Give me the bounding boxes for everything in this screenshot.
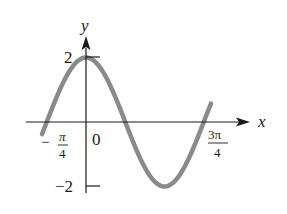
x-axis-label: x bbox=[257, 112, 266, 131]
x-tick-label-3pi-4-den: 4 bbox=[214, 145, 221, 160]
cosine-graph: x y 2 −2 0 − π 4 3π 4 bbox=[0, 0, 287, 214]
y-tick-label-2: 2 bbox=[64, 48, 73, 67]
y-axis-arrow-icon bbox=[82, 36, 91, 50]
x-tick-label-3pi-4-num: 3π bbox=[208, 127, 222, 142]
x-tick-label-neg-pi-4-sign: − bbox=[41, 134, 49, 150]
y-tick-label-neg2: −2 bbox=[55, 177, 73, 196]
origin-label: 0 bbox=[92, 130, 101, 149]
x-tick-label-neg-pi-4-num: π bbox=[59, 129, 66, 144]
x-tick-label-neg-pi-4-den: 4 bbox=[59, 146, 66, 161]
y-axis-label: y bbox=[79, 16, 89, 35]
